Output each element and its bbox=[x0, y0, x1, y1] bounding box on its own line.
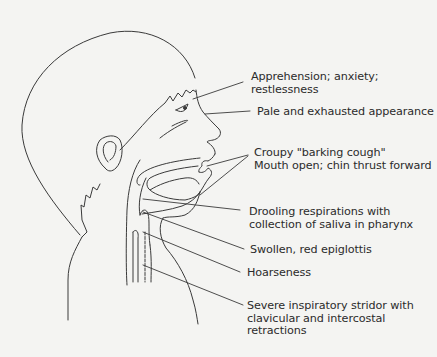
ear-inner bbox=[103, 142, 116, 162]
pharynx-anterior bbox=[139, 178, 146, 215]
leader-lines bbox=[143, 82, 250, 305]
lower-lip bbox=[199, 168, 212, 192]
neck-front bbox=[160, 218, 198, 324]
label-epiglottis: Swollen, red epiglottis bbox=[250, 244, 372, 257]
nape-hair bbox=[81, 184, 100, 237]
leader-pale bbox=[205, 111, 250, 114]
label-stridor: Severe inspiratory stridor with clavicul… bbox=[247, 300, 414, 338]
leader-hoarseness bbox=[143, 232, 240, 272]
label-apprehension: Apprehension; anxiety; restlessness bbox=[251, 71, 379, 96]
cheek-line-2 bbox=[160, 122, 186, 138]
hairline bbox=[120, 90, 196, 150]
label-pale-appearance: Pale and exhausted appearance bbox=[257, 106, 434, 119]
epiglottitis-illustration: Apprehension; anxiety; restlessness Pale… bbox=[0, 0, 437, 357]
label-drooling: Drooling respirations with collection of… bbox=[249, 206, 413, 231]
label-hoarseness: Hoarseness bbox=[247, 267, 311, 280]
trachea-front bbox=[150, 245, 151, 282]
leader-epiglottis bbox=[143, 212, 244, 249]
trachea-ring-1 bbox=[133, 230, 138, 282]
label-croupy-cough: Croupy "barking cough" Mouth open; chin … bbox=[254, 147, 432, 172]
hard-palate bbox=[137, 158, 200, 185]
neck-back bbox=[68, 237, 82, 320]
face-profile bbox=[196, 90, 220, 154]
skull-outline bbox=[22, 31, 195, 235]
leader-apprehension bbox=[193, 82, 243, 99]
tongue-body bbox=[150, 190, 200, 200]
tongue-top bbox=[147, 166, 199, 190]
eye-pupil bbox=[184, 107, 187, 110]
